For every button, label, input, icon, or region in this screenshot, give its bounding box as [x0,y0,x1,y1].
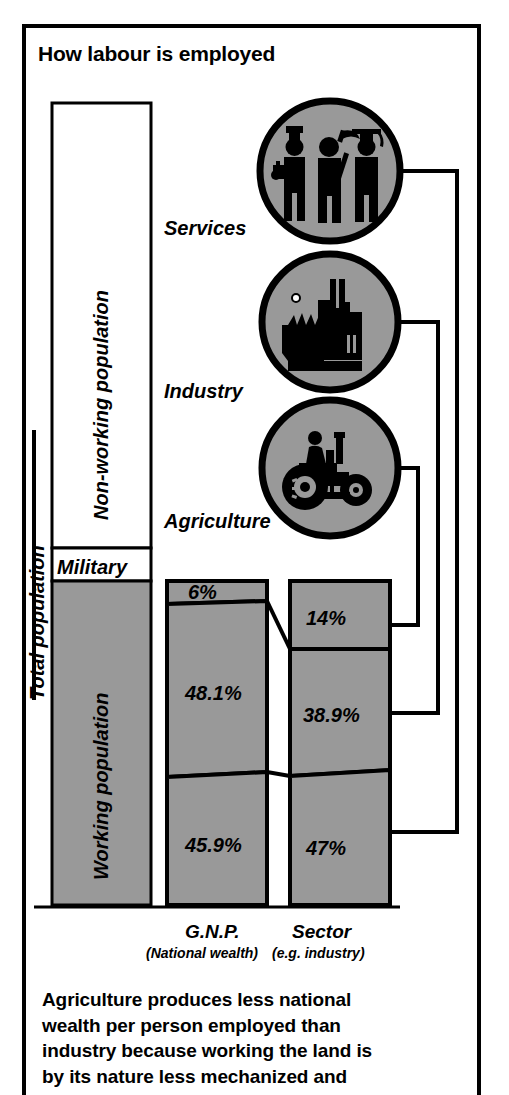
military-label: Military [57,556,128,578]
sector-label-services: Services [164,217,246,239]
column-subtitle-sector: (e.g. industry) [272,945,365,961]
column-subtitle-gnp: (National wealth) [146,945,258,961]
connector-industry [390,322,438,713]
factory-icon [262,254,398,390]
sector-services-value: 47% [305,837,346,859]
non-working-population-label: Non-working population [90,290,112,520]
caption-line: Agriculture produces less national [42,987,442,1013]
gnp-agriculture-value: 6% [188,581,217,603]
gnp-services-value: 45.9% [184,834,242,856]
working-population-label: Working population [90,693,112,880]
labour-employment-diagram: Total population Non-working population … [0,0,509,1095]
total-population-label: Total population [26,545,48,700]
three-workers-icon [260,101,400,241]
sector-agriculture-value: 14% [306,607,346,629]
column-title-sector: Sector [292,921,353,942]
caption-paragraph: Agriculture produces less national wealt… [42,987,442,1089]
sector-industry-value: 38.9% [303,704,360,726]
caption-line: industry because working the land is [42,1038,442,1064]
tie-line-lower [267,772,290,776]
sector-label-agriculture: Agriculture [163,510,271,532]
connector-services [390,171,457,832]
tie-line-upper [267,601,290,649]
caption-line: by its nature less mechanized and [42,1064,442,1090]
column-title-gnp: G.N.P. [185,921,240,942]
gnp-industry-value: 48.1% [184,682,242,704]
caption-line: wealth per person employed than [42,1013,442,1039]
sector-label-industry: Industry [164,380,244,402]
tractor-icon [262,400,398,536]
